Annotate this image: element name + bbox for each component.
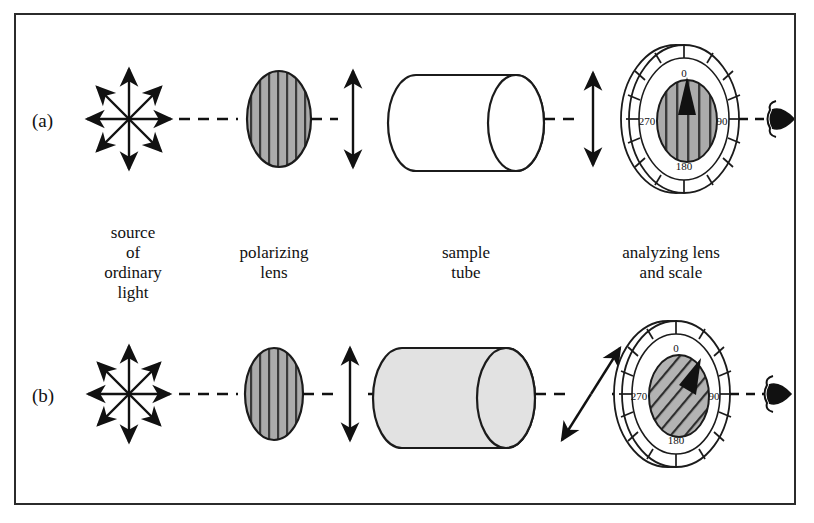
sample-tube-b xyxy=(373,348,535,448)
observer-eye-b xyxy=(765,376,792,412)
caption-source-line-3: ordinary xyxy=(68,263,198,283)
scale-label-0-a: 0 xyxy=(681,67,687,79)
caption-polarizer-line-2: lens xyxy=(204,263,344,283)
panel-a-label: (a) xyxy=(32,110,53,132)
caption-tube-line-2: tube xyxy=(396,263,536,283)
panel-b-label: (b) xyxy=(32,385,54,407)
caption-source-line-1: source xyxy=(68,223,198,243)
panel-b: (b) xyxy=(16,290,794,505)
scale-label-270-b: 270 xyxy=(631,390,648,402)
observer-eye-a xyxy=(768,101,795,137)
scale-label-90-a: 90 xyxy=(717,115,729,127)
light-source-starburst-a xyxy=(87,69,171,169)
figure-canvas: (a) xyxy=(0,0,814,523)
caption-analyzer: analyzing lens and scale xyxy=(566,243,776,283)
analyzer-assembly-b[interactable]: 0 90 180 270 xyxy=(614,321,733,467)
caption-polarizer: polarizing lens xyxy=(204,243,344,283)
caption-sample-tube: sample tube xyxy=(396,243,536,283)
sample-tube-a xyxy=(388,75,544,171)
caption-analyzer-line-1: analyzing lens xyxy=(566,243,776,263)
scale-label-270-a: 270 xyxy=(639,115,656,127)
rotated-beam-arrow-b xyxy=(562,348,620,440)
light-source-starburst-b xyxy=(88,346,170,442)
caption-analyzer-line-2: and scale xyxy=(566,263,776,283)
polarizing-lens-b xyxy=(245,348,303,440)
figure-border: (a) xyxy=(14,13,796,505)
caption-polarizer-line-1: polarizing xyxy=(204,243,344,263)
caption-source-line-2: of xyxy=(68,243,198,263)
scale-label-90-b: 90 xyxy=(709,390,721,402)
caption-tube-line-1: sample xyxy=(396,243,536,263)
scale-label-0-b: 0 xyxy=(673,342,679,354)
polarizing-lens-a xyxy=(247,71,311,167)
